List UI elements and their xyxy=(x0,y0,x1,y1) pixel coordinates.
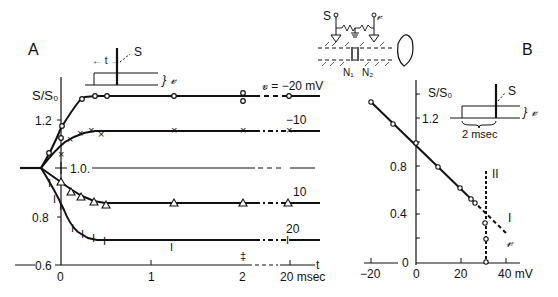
a-xtick-0: 0 xyxy=(57,270,64,284)
a-ytick-0.6: 0.6 xyxy=(35,259,52,273)
svg-text:I: I xyxy=(71,222,74,234)
b-inset-v: } 𝓋 xyxy=(521,104,538,119)
b-inset-duration: 2 msec xyxy=(462,128,498,140)
b-ytick-1.2: 1.2 xyxy=(422,112,439,126)
svg-text:×: × xyxy=(240,124,246,136)
b-xtick-minus20: −20 xyxy=(360,267,381,281)
a-series-minus10-label: −10 xyxy=(286,113,307,127)
svg-text:I: I xyxy=(59,200,62,212)
diagram-n1-label: N₁ xyxy=(343,67,354,78)
a-series-minus20-label: 𝓋 = −20 mV xyxy=(262,79,323,93)
b-inset-s: S xyxy=(508,84,516,98)
electrode-diagram: S 𝓋 N₁ N₂ xyxy=(318,9,413,78)
b-xlabel: 𝓋 xyxy=(506,234,514,250)
diagram-v-label: 𝓋 xyxy=(376,9,383,23)
b-xtick-0: 0 xyxy=(413,267,420,281)
svg-text:I: I xyxy=(53,193,56,205)
b-xtick-40: 40 mV xyxy=(498,267,533,281)
diagram-n2-label: N₂ xyxy=(362,67,373,78)
a-series-10-label: 10 xyxy=(293,185,307,199)
a-xtick-1: 1 xyxy=(148,270,155,284)
b-line-II-label: II xyxy=(492,167,499,181)
a-xtick-20: 20 msec xyxy=(280,270,325,284)
svg-text:I: I xyxy=(48,177,51,189)
b-ylabel: S/S₀ xyxy=(428,86,452,100)
b-line-I-label: I xyxy=(508,211,511,225)
a-ytick-0.8: 0.8 xyxy=(32,211,49,225)
b-ytick-0.4: 0.4 xyxy=(390,207,407,221)
b-xtick-20: 20 xyxy=(454,267,468,281)
svg-text:×: × xyxy=(67,133,73,145)
b-ytick-0.8: 0.8 xyxy=(390,160,407,174)
b-ytick-0: 0 xyxy=(402,256,409,270)
svg-text:×: × xyxy=(88,124,94,136)
a-inset-s: S xyxy=(134,45,142,59)
svg-text:‡: ‡ xyxy=(240,250,246,262)
a-xtick-2: 2 xyxy=(239,270,246,284)
a-inset-pulse: ← t → S } 𝓋 xyxy=(85,45,177,87)
svg-text:I: I xyxy=(81,228,84,240)
a-inset-t: ← t → xyxy=(92,55,120,66)
diagram-s-label: S xyxy=(323,9,331,23)
svg-text:×: × xyxy=(58,148,64,160)
svg-text:I: I xyxy=(92,232,95,244)
a-series-20-label: 20 xyxy=(286,222,300,236)
a-ytick-1.0: 1.0. xyxy=(70,162,90,176)
b-line-II: II xyxy=(486,167,499,263)
a-ylabel: S/S₀ xyxy=(32,88,58,103)
a-series-minus10: ××× ××× ×× −10 xyxy=(41,113,320,168)
a-series-20: III III II‡ I 20 xyxy=(41,168,320,262)
panel-a-label: A xyxy=(28,41,39,58)
svg-text:I: I xyxy=(103,235,106,247)
svg-text:×: × xyxy=(77,127,83,139)
panel-b-label: B xyxy=(522,41,533,58)
panel-b: B S/S₀ 1.2 0.8 0.4 0 −20 0 20 40 mV 𝓋 S xyxy=(360,41,538,281)
a-ytick-1.2: 1.2 xyxy=(35,114,52,128)
a-inset-v: } 𝓋 xyxy=(160,72,177,87)
figure-canvas: A S/S₀ 1.2 0.8 0.6 1.0. 0 1 2 20 msec t xyxy=(0,0,558,297)
svg-text:×: × xyxy=(171,124,177,136)
a-series-minus20: 𝓋 = −20 mV xyxy=(41,79,323,168)
svg-text:I: I xyxy=(170,241,173,253)
b-inset-pulse: S } 𝓋 2 msec xyxy=(450,84,538,140)
panel-a: A S/S₀ 1.2 0.8 0.6 1.0. 0 1 2 20 msec t xyxy=(15,41,325,284)
svg-text:×: × xyxy=(98,128,104,140)
